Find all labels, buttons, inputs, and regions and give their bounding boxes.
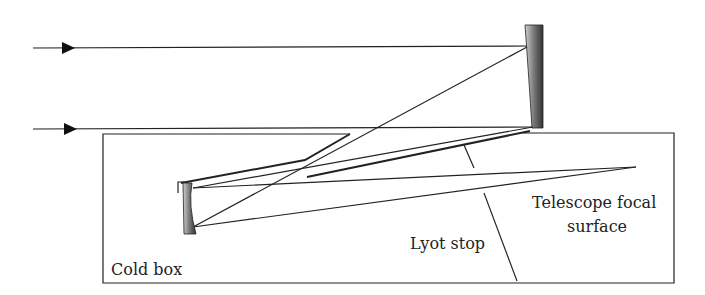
- label-focal-surface-1: Telescope focal: [532, 193, 656, 212]
- arrow-icon: [64, 123, 77, 135]
- incoming-beam-bottom: [33, 123, 533, 135]
- lyot-stop-leader: [484, 193, 517, 281]
- secondary-mirror: [183, 183, 196, 234]
- optical-diagram: Cold box Lyot stop Telescope focal surfa…: [0, 0, 705, 295]
- arrow-icon: [62, 42, 75, 54]
- incoming-beam-top: [33, 42, 527, 54]
- label-focal-surface-2: surface: [567, 217, 627, 236]
- primary-mirror: [525, 25, 543, 128]
- label-cold-box: Cold box: [111, 260, 182, 279]
- lyot-stop-upper: [464, 145, 474, 168]
- label-lyot-stop: Lyot stop: [410, 234, 485, 253]
